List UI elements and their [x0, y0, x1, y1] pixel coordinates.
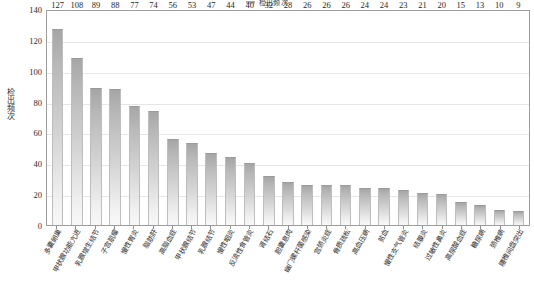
bar[interactable]: 20: [436, 194, 448, 225]
bar-slot: 13: [470, 11, 489, 225]
x-label-slot: 乳腺增生结节: [86, 229, 105, 298]
bar[interactable]: 9: [513, 211, 525, 225]
bar[interactable]: 40: [244, 163, 256, 225]
bar-slot: 77: [125, 11, 144, 225]
bar-slot: 108: [67, 11, 86, 225]
bar-slot: 26: [336, 11, 355, 225]
bar[interactable]: 108: [71, 58, 83, 225]
x-axis-tick-label: 子宫肌瘤: [101, 229, 121, 256]
bar[interactable]: 53: [186, 143, 198, 225]
x-axis-tick-label: 结膜炎: [413, 229, 430, 250]
bar-slot: 47: [202, 11, 221, 225]
bar-slot: 10: [490, 11, 509, 225]
bar[interactable]: 13: [474, 205, 486, 225]
plot-area: 1271088988777456534744403228262626242423…: [46, 10, 530, 226]
x-label-slot: 结膜炎: [413, 229, 432, 298]
bar-value-label: 28: [284, 1, 293, 10]
bar-value-label: 13: [476, 1, 485, 10]
bar[interactable]: 44: [225, 157, 237, 225]
bar-value-label: 20: [437, 1, 446, 10]
bar-value-label: 24: [380, 1, 389, 10]
x-label-slot: 幽门螺杆菌感染: [298, 229, 317, 298]
y-axis-tick-label: 120: [29, 37, 42, 46]
bar-slot: 9: [509, 11, 528, 225]
x-label-slot: 甲状腺结节: [182, 229, 201, 298]
x-label-slot: 骨质疏松: [336, 229, 355, 298]
bar-slot: 89: [86, 11, 105, 225]
x-axis-tick-label: 乳腺结节: [197, 229, 217, 256]
y-axis-tick-label: 100: [29, 67, 42, 76]
bar[interactable]: 89: [90, 88, 102, 225]
bar-slot: 127: [48, 11, 67, 225]
y-axis-tick-label: 0: [38, 222, 42, 231]
bar[interactable]: 47: [205, 153, 217, 226]
bar-slot: 24: [355, 11, 374, 225]
bar-value-label: 26: [322, 1, 331, 10]
bar-value-label: 74: [149, 1, 158, 10]
x-axis-tick-labels: 多囊卵巢甲状腺功能亢进乳腺增生结节子宫肌瘤慢性胃炎脂肪肝高脂血症甲状腺结节乳腺结…: [46, 229, 530, 298]
bar-slot: 21: [413, 11, 432, 225]
bar[interactable]: 28: [282, 182, 294, 225]
x-axis-tick-label: 糖尿病: [471, 229, 488, 250]
y-axis-tick-label: 20: [34, 191, 43, 200]
bar[interactable]: 26: [340, 185, 352, 225]
bar-value-label: 89: [92, 1, 101, 10]
bar-slot: 24: [374, 11, 393, 225]
bar[interactable]: 24: [359, 188, 371, 225]
bar-slot: 32: [259, 11, 278, 225]
bar[interactable]: 15: [455, 202, 467, 225]
x-label-slot: 慢性支气管炎: [394, 229, 413, 298]
bar-value-label: 24: [361, 1, 370, 10]
bar[interactable]: 23: [398, 190, 410, 225]
x-axis-tick-label: 宫颈炎症: [313, 229, 333, 256]
bar-value-label: 108: [70, 1, 83, 10]
bar[interactable]: 21: [417, 193, 429, 225]
x-axis-tick-label: 脂肪肝: [143, 229, 160, 250]
bar-slot: 53: [182, 11, 201, 225]
x-label-slot: 高尿酸血症: [452, 229, 471, 298]
bar-value-label: 53: [188, 1, 197, 10]
x-label-slot: 宫颈炎症: [317, 229, 336, 298]
bar[interactable]: 26: [301, 185, 313, 225]
bar-slot: 26: [317, 11, 336, 225]
bar[interactable]: 26: [321, 185, 333, 225]
bar-value-label: 32: [265, 1, 274, 10]
bar-value-label: 56: [169, 1, 178, 10]
x-label-slot: 脂肪肝: [143, 229, 162, 298]
x-label-slot: 反流性食管炎: [240, 229, 259, 298]
y-axis-tick-label: 40: [34, 160, 43, 169]
bar-slot: 20: [432, 11, 451, 225]
bar-value-label: 47: [207, 1, 216, 10]
bar-value-label: 26: [341, 1, 350, 10]
bar[interactable]: 127: [52, 29, 64, 225]
x-label-slot: 腰椎间盘突出: [510, 229, 529, 298]
y-axis-tick-label: 80: [34, 98, 43, 107]
bar-value-label: 26: [303, 1, 312, 10]
x-label-slot: 高脂血症: [163, 229, 182, 298]
y-axis-tick-label: 140: [29, 6, 42, 15]
bar-value-label: 9: [516, 1, 520, 10]
bar-slot: 44: [221, 11, 240, 225]
bar[interactable]: 10: [494, 210, 506, 225]
bar-value-label: 15: [457, 1, 466, 10]
bar[interactable]: 56: [167, 139, 179, 225]
x-label-slot: 乳腺结节: [201, 229, 220, 298]
x-label-slot: 子宫肌瘤: [105, 229, 124, 298]
bar[interactable]: 88: [109, 89, 121, 225]
x-label-slot: 肾结石: [259, 229, 278, 298]
x-axis-tick-label: 肾结石: [259, 229, 276, 250]
x-axis-tick-label: 贫血: [378, 229, 391, 245]
bar[interactable]: 74: [148, 111, 160, 225]
bar[interactable]: 77: [129, 106, 141, 225]
x-axis-tick-label: 颈椎病: [490, 229, 507, 250]
bar[interactable]: 32: [263, 176, 275, 225]
bar-slot: 88: [106, 11, 125, 225]
x-axis-tick-label: 骨质疏松: [332, 229, 352, 256]
bar-value-label: 88: [111, 1, 120, 10]
bar-value-label: 77: [130, 1, 139, 10]
x-label-slot: 慢性胃炎: [124, 229, 143, 298]
x-axis-tick-label: 慢性胃炎: [120, 229, 140, 256]
bar[interactable]: 24: [378, 188, 390, 225]
x-label-slot: 过敏性鼻炎: [433, 229, 452, 298]
bar-value-label: 127: [51, 1, 64, 10]
